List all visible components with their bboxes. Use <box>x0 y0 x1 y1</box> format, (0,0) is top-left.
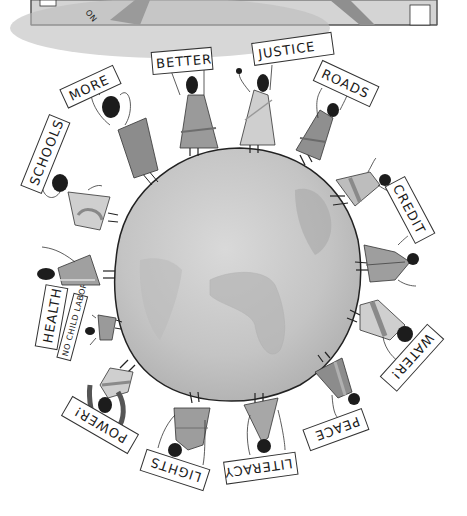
person-better: BETTER <box>151 47 218 156</box>
person-schools: SCHOOLS <box>21 115 118 230</box>
person-roads: ROADS <box>296 61 379 165</box>
person-power: POWER! <box>62 360 139 454</box>
globe-illustration: ON MORE BETTER <box>0 0 467 516</box>
person-water: WATER! <box>347 300 444 391</box>
sign-water: WATER! <box>388 331 437 383</box>
person-more: MORE <box>60 65 158 185</box>
globe <box>115 148 361 401</box>
person-lights: LIGHTS <box>140 392 210 491</box>
person-literacy: LITERACY <box>222 393 298 484</box>
person-right-middle <box>355 236 419 286</box>
top-panel: ON <box>10 0 437 58</box>
